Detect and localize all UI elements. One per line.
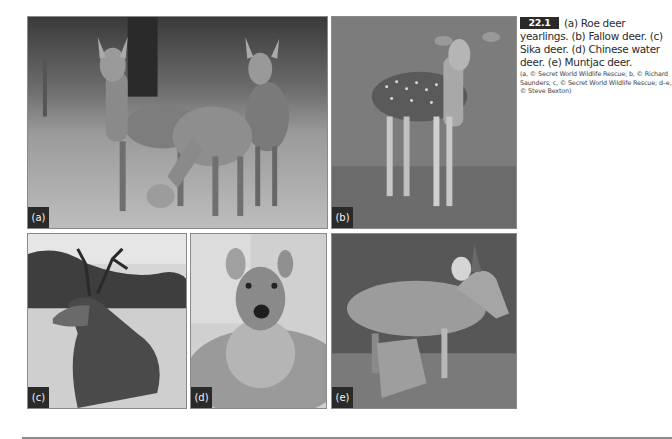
panel-label-e: (e) [332, 387, 353, 408]
chinese-water-deer-photo [191, 234, 326, 408]
photo-panel-b-fallow-deer: (b) [331, 16, 517, 229]
panel-label-b: (b) [332, 207, 353, 228]
muntjac-deer-photo [332, 234, 516, 408]
figure-number-badge: 22.1 [520, 17, 559, 29]
photo-credits: (a, © Secret World Wildlife Rescue; b, ©… [520, 70, 672, 96]
sika-deer-photo [28, 234, 186, 408]
panel-label-c: (c) [28, 387, 49, 408]
photo-panel-c-sika-deer: (c) [27, 233, 187, 409]
figure-caption: 22.1(a) Roe deer yearlings. (b) Fallow d… [520, 17, 672, 96]
photo-panel-a-roe-deer: (a) [27, 16, 328, 229]
panel-label-d: (d) [191, 387, 212, 408]
roe-deer-photo [28, 17, 327, 228]
fallow-deer-photo [332, 17, 516, 228]
photo-panel-d-chinese-water-deer: (d) [190, 233, 327, 409]
panel-label-a: (a) [28, 207, 49, 228]
photo-panel-e-muntjac-deer: (e) [331, 233, 517, 409]
